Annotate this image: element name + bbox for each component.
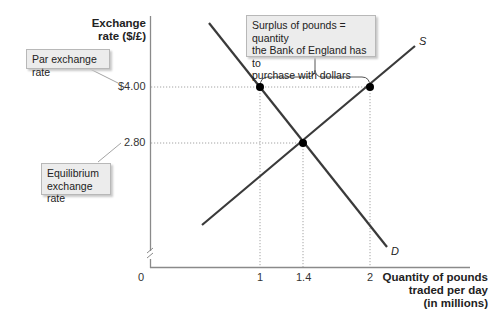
surplus-callout-line3: purchase with dollars xyxy=(252,69,370,82)
x-axis-title-line2: traded per day xyxy=(376,284,488,297)
equilibrium-callout-line1: Equilibrium xyxy=(47,167,105,180)
y-axis-title-line1: Exchange xyxy=(88,17,146,30)
surplus-callout-line2: the Bank of England has to xyxy=(252,44,370,69)
x-tick-2: 2 xyxy=(367,271,373,283)
equilibrium-callout-pointer xyxy=(98,143,121,162)
surplus-callout-line1: Surplus of pounds = quantity xyxy=(252,19,370,44)
par-rate-callout: Par exchange rate xyxy=(26,49,110,69)
y-tick-par: $4.00 xyxy=(118,80,146,92)
qd-at-par-point xyxy=(256,83,264,91)
x-axis-title: Quantity of pounds traded per day (in mi… xyxy=(376,271,488,310)
x-tick-1: 1 xyxy=(257,271,263,283)
axis-break-icon xyxy=(146,248,155,259)
exchange-rate-chart: Exchange rate ($/£) Quantity of pounds t… xyxy=(0,0,489,326)
x-axis-title-line1: Quantity of pounds xyxy=(376,271,488,284)
y-tick-equilibrium: 2.80 xyxy=(124,136,145,148)
par-callout-pointer xyxy=(88,68,118,83)
y-axis-title-line2: rate ($/£) xyxy=(88,30,146,43)
equilibrium-point xyxy=(299,139,307,147)
equilibrium-rate-callout: Equilibrium exchange rate xyxy=(41,163,111,195)
supply-label: S xyxy=(419,35,426,47)
demand-label: D xyxy=(391,245,399,257)
equilibrium-callout-line2: exchange rate xyxy=(47,180,105,205)
surplus-callout: Surplus of pounds = quantity the Bank of… xyxy=(246,15,376,57)
origin-label: 0 xyxy=(138,271,144,283)
x-tick-1-4: 1.4 xyxy=(296,271,311,283)
x-axis-title-line3: (in millions) xyxy=(376,297,488,310)
qs-at-par-point xyxy=(366,83,374,91)
y-axis-title: Exchange rate ($/£) xyxy=(88,17,146,43)
